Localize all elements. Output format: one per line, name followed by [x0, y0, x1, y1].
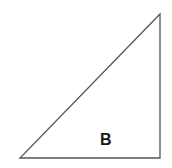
- triangle-label: B: [100, 131, 112, 148]
- triangle-diagram: B: [0, 0, 172, 168]
- right-triangle: [20, 14, 160, 158]
